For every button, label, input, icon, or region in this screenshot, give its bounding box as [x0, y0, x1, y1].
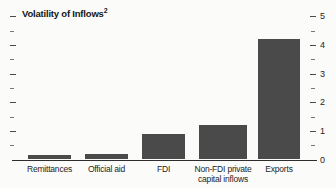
plot-area: RemittancesOfficial aidFDINon-FDI privat…	[0, 0, 336, 188]
y-axis-label-3: 3	[320, 69, 325, 79]
y-axis-minor-tick-right	[311, 88, 315, 89]
y-axis-major-tick-left	[10, 131, 16, 132]
y-axis-major-tick-right	[310, 102, 316, 103]
y-axis-label-2: 2	[320, 97, 325, 107]
bar-non-fdi-private-capital-inflows	[199, 125, 247, 159]
y-axis-minor-tick-right	[311, 31, 315, 32]
y-axis-major-tick-right	[310, 16, 316, 17]
y-axis-minor-tick-right	[311, 59, 315, 60]
category-label-exports: Exports	[239, 164, 319, 174]
y-axis-major-tick-right	[310, 74, 316, 75]
bar-official-aid	[85, 154, 128, 160]
y-axis-minor-tick-right	[311, 117, 315, 118]
y-axis-minor-tick-left	[10, 31, 14, 32]
y-axis-label-1: 1	[320, 126, 325, 136]
y-axis-major-tick-left	[10, 102, 16, 103]
y-axis-major-tick-right	[310, 131, 316, 132]
y-axis-label-5: 5	[320, 11, 325, 21]
x-axis-line	[12, 160, 317, 161]
bar-fdi	[142, 134, 185, 160]
y-axis-minor-tick-left	[10, 117, 14, 118]
y-axis-major-tick-right	[310, 45, 316, 46]
y-axis-minor-tick-left	[10, 88, 14, 89]
y-axis-minor-tick-left	[10, 145, 14, 146]
y-axis-minor-tick-right	[311, 145, 315, 146]
y-axis-minor-tick-left	[10, 59, 14, 60]
y-axis-label-4: 4	[320, 40, 325, 50]
bar-exports	[258, 39, 300, 159]
volatility-of-inflows-chart: Volatility of Inflows2 RemittancesOffici…	[0, 0, 336, 188]
y-axis-major-tick-left	[10, 16, 16, 17]
bar-remittances	[28, 155, 71, 159]
y-axis-major-tick-left	[10, 45, 16, 46]
y-axis-major-tick-left	[10, 74, 16, 75]
y-axis-label-0: 0	[320, 155, 325, 165]
